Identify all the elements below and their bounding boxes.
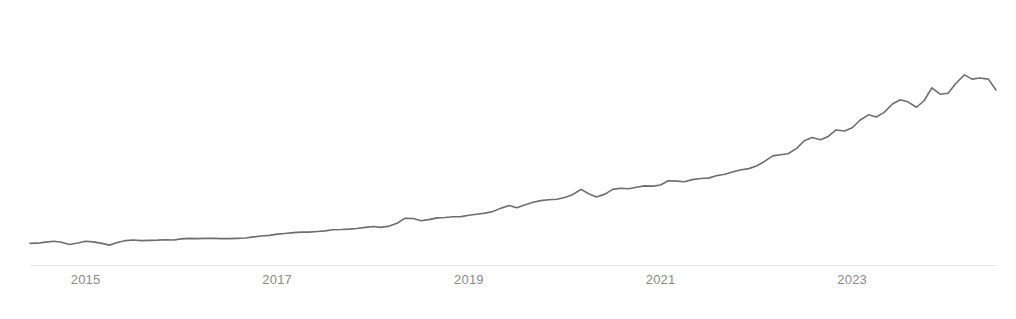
line-chart: 20152017201920212023 [0, 0, 1016, 319]
x-tick-label-2019: 2019 [454, 272, 484, 287]
x-tick-label-2023: 2023 [837, 272, 867, 287]
x-tick-label-2017: 2017 [262, 272, 292, 287]
series-line [30, 75, 996, 245]
x-tick-label-2015: 2015 [71, 272, 101, 287]
x-tick-label-2021: 2021 [646, 272, 676, 287]
